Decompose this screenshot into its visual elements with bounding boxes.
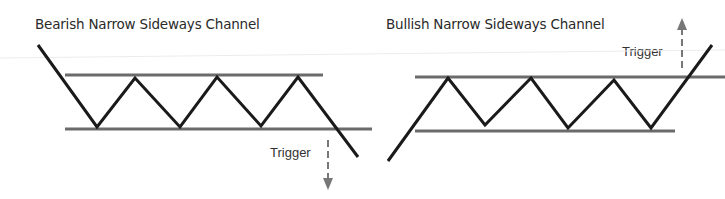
bullish-price-zigzag-line xyxy=(388,45,712,161)
bearish-channel-graphic xyxy=(38,45,372,190)
arrow-up-icon xyxy=(677,18,687,30)
faint-background-line xyxy=(0,50,725,58)
bearish-price-zigzag-line xyxy=(38,45,358,157)
arrow-down-icon xyxy=(323,178,333,190)
channel-diagram-canvas xyxy=(0,0,725,199)
bullish-channel-graphic xyxy=(388,18,725,161)
